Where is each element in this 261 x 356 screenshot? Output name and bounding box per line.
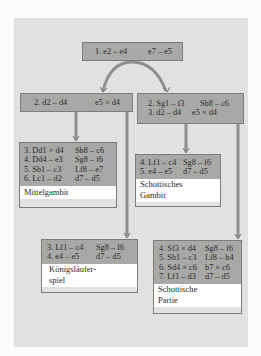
node-mittelgambit: 3. Dd1 × d4 Sb8 – c6 4. Dd4 – e3 Sg8 – f… — [19, 142, 117, 208]
black-move: d7 – d5 — [96, 252, 132, 261]
opening-name: Schottische Partie — [154, 284, 241, 307]
white-move: 1. e2 – e4 — [95, 47, 127, 56]
black-move: Lf8 – e7 — [75, 165, 112, 174]
black-move: e5 × d4 — [95, 98, 120, 107]
black-move: d7 – d5 — [75, 174, 112, 183]
black-move: Sg8 – f6 — [96, 243, 132, 252]
move-row: 5. Sb1 – c3 Lf8 – e7 — [24, 165, 112, 174]
move-row: 2. d2 – d4 e5 × d4 — [34, 98, 120, 107]
opening-name: Mittelgambit — [20, 186, 116, 199]
move-list: 2. Sg1 – f3 Sb8 – c6 3. d2 – d4 e5 × d4 — [138, 94, 243, 123]
black-move: e5 × d4 — [192, 108, 229, 117]
opening-name-line: Gambit — [140, 190, 216, 201]
white-move: 3. Dd1 × d4 — [24, 146, 64, 155]
black-move: Sg8 – f6 — [183, 158, 216, 167]
move-row: 4. Dd4 – e3 Sg8 – f6 — [24, 155, 112, 164]
move-row: 3. d2 – d4 e5 × d4 — [148, 108, 229, 117]
opening-name-line: Schottisches — [140, 179, 216, 190]
node-koenigslaeuferspiel: 3. Lf1 – c4 Sg8 – f6 4. e4 – e5 d7 – d5 … — [41, 239, 138, 293]
black-move: Sg8 – f6 — [205, 244, 237, 253]
black-move: d7 – d5 — [183, 167, 216, 176]
arrow-root-to-scotch — [132, 62, 166, 91]
move-list: 1. e2 – e4 e7 – e5 — [83, 43, 182, 60]
black-move: Sg8 – f6 — [75, 155, 112, 164]
black-move: Sb8 – c6 — [200, 99, 229, 108]
black-move: b7 × c6 — [205, 263, 237, 272]
white-move: 2. Sg1 – f3 — [148, 99, 184, 108]
white-move: 5. e4 – e5 — [140, 167, 172, 176]
move-list: 3. Lf1 – c4 Sg8 – f6 4. e4 – e5 d7 – d5 — [42, 240, 137, 264]
move-row: 4. Lf1 – c4 Sg8 – f6 — [140, 158, 216, 167]
move-row: 2. Sg1 – f3 Sb8 – c6 — [148, 99, 229, 108]
move-row: 3. Lf1 – c4 Sg8 – f6 — [47, 243, 132, 252]
black-move: d7 – d5 — [205, 272, 237, 281]
white-move: 3. Lf1 – c4 — [47, 243, 83, 252]
white-move: 4. Dd4 – e3 — [24, 155, 63, 164]
white-move: 4. Lf1 – c4 — [140, 158, 176, 167]
opening-name: Königsläufer- spiel — [42, 264, 137, 287]
opening-name-line: Partie — [158, 295, 237, 306]
move-list: 3. Dd1 × d4 Sb8 – c6 4. Dd4 – e3 Sg8 – f… — [20, 143, 116, 186]
node-root: 1. e2 – e4 e7 – e5 — [82, 42, 183, 61]
move-row: 1. e2 – e4 e7 – e5 — [95, 47, 172, 56]
move-list: 2. d2 – d4 e5 × d4 — [21, 94, 132, 111]
white-move: 3. d2 – d4 — [148, 108, 181, 117]
black-move: e7 – e5 — [148, 47, 172, 56]
move-row: 4. Sf3 × d4 Sg8 – f6 — [159, 244, 237, 253]
black-move: Lf8 – b4 — [205, 253, 237, 262]
white-move: 5. Sb1 – c3 — [24, 165, 61, 174]
opening-name-line: Königsläufer- — [49, 264, 133, 275]
move-row: 4. e4 – e5 d7 – d5 — [47, 252, 132, 261]
node-scotch: 2. Sg1 – f3 Sb8 – c6 3. d2 – d4 e5 × d4 — [137, 93, 244, 124]
white-move: 4. Sf3 × d4 — [159, 244, 196, 253]
white-move: 5. Sb1 – c3 — [159, 253, 196, 262]
move-row: 5. e4 – e5 d7 – d5 — [140, 167, 216, 176]
arrow-root-to-center — [103, 62, 132, 91]
opening-name-line: Schottische — [158, 284, 237, 295]
move-row: 7. Lf1 – d3 d7 – d5 — [159, 272, 237, 281]
move-list: 4. Lf1 – c4 Sg8 – f6 5. e4 – e5 d7 – d5 — [136, 155, 220, 179]
black-move: Sb8 – c6 — [75, 146, 112, 155]
white-move: 6. Lc1 – d2 — [24, 174, 62, 183]
move-row: 6. Sd4 × c6 b7 × c6 — [159, 263, 237, 272]
move-row: 6. Lc1 – d2 d7 – d5 — [24, 174, 112, 183]
opening-name-line: spiel — [49, 275, 133, 286]
node-center: 2. d2 – d4 e5 × d4 — [20, 93, 133, 112]
white-move: 6. Sd4 × c6 — [159, 263, 197, 272]
move-row: 3. Dd1 × d4 Sb8 – c6 — [24, 146, 112, 155]
move-row: 5. Sb1 – c3 Lf8 – b4 — [159, 253, 237, 262]
opening-name: Schottisches Gambit — [136, 179, 220, 202]
white-move: 4. e4 – e5 — [47, 252, 79, 261]
move-list: 4. Sf3 × d4 Sg8 – f6 5. Sb1 – c3 Lf8 – b… — [154, 241, 241, 284]
node-schottische-partie: 4. Sf3 × d4 Sg8 – f6 5. Sb1 – c3 Lf8 – b… — [153, 240, 242, 314]
white-move: 2. d2 – d4 — [34, 98, 67, 107]
white-move: 7. Lf1 – d3 — [159, 272, 196, 281]
node-schottisches-gambit: 4. Lf1 – c4 Sg8 – f6 5. e4 – e5 d7 – d5 … — [135, 154, 221, 207]
